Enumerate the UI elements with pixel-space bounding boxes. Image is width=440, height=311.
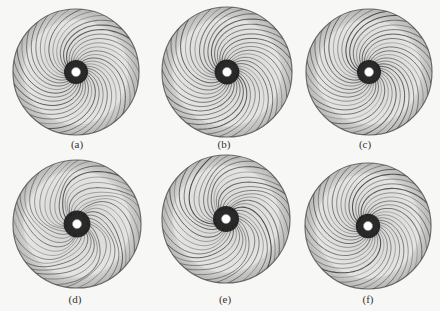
panel-label: (f): [348, 293, 388, 305]
spiral-streamline-plot: [160, 153, 292, 285]
spiral-streamline-plot: [11, 7, 141, 137]
panel-label: (d): [55, 293, 95, 305]
panel-label: (a): [57, 138, 97, 150]
panel-label: (b): [204, 138, 244, 150]
spiral-streamline-plot: [11, 158, 143, 290]
panel-label: (c): [345, 138, 385, 150]
panel-label: (e): [205, 293, 245, 305]
spiral-streamline-plot: [304, 7, 434, 137]
spiral-streamline-plot: [160, 5, 294, 139]
spiral-streamline-plot: [303, 161, 433, 291]
